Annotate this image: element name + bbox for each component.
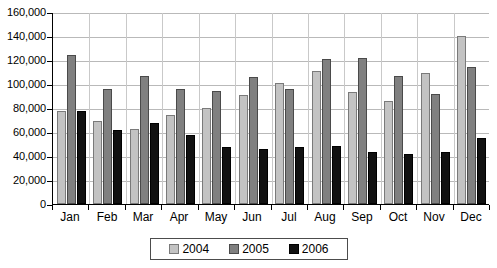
bar-jan-2005 [67, 55, 76, 204]
bar-nov-2006 [441, 152, 450, 204]
bar-apr-2006 [186, 135, 195, 204]
y-axis-tick-label: 40,000 [0, 151, 46, 162]
legend-item-2006: 2006 [289, 243, 329, 255]
bar-jul-2006 [295, 147, 304, 204]
bar-mar-2006 [150, 123, 159, 204]
bar-chart: 020,00040,00060,00080,000100,000120,0001… [0, 0, 497, 268]
y-axis-tick-label: 160,000 [0, 7, 46, 18]
bar-jul-2004 [275, 83, 284, 204]
legend-item-2005: 2005 [229, 243, 269, 255]
bar-group [126, 13, 162, 204]
bar-dec-2004 [457, 36, 466, 204]
bar-nov-2005 [431, 94, 440, 204]
legend-item-2004: 2004 [169, 243, 209, 255]
bar-mar-2005 [140, 76, 149, 204]
x-axis-tick [489, 205, 490, 210]
legend-swatch-2005 [229, 244, 239, 254]
bar-jun-2005 [249, 77, 258, 204]
bar-sep-2004 [348, 92, 357, 204]
plot-area [52, 13, 489, 205]
y-axis-tick-label: 140,000 [0, 31, 46, 42]
bar-group [199, 13, 235, 204]
bar-mar-2004 [130, 129, 139, 204]
bar-may-2004 [202, 108, 211, 204]
bar-jun-2006 [259, 149, 268, 204]
y-axis-tick-label: 100,000 [0, 79, 46, 90]
bar-group [89, 13, 125, 204]
bar-jun-2004 [239, 95, 248, 204]
bar-group [162, 13, 198, 204]
bar-group [53, 13, 89, 204]
y-axis-tick-label: 80,000 [0, 103, 46, 114]
legend-label-2004: 2004 [182, 243, 209, 255]
bar-aug-2006 [332, 146, 341, 204]
legend-swatch-2004 [169, 244, 179, 254]
bar-feb-2006 [113, 130, 122, 204]
y-axis-tick-label: 20,000 [0, 175, 46, 186]
plot-inner [53, 13, 489, 204]
bar-may-2005 [212, 91, 221, 204]
y-axis-tick-label: 0 [0, 199, 46, 210]
chart-legend: 200420052006 [150, 238, 348, 260]
bar-sep-2005 [358, 58, 367, 204]
bar-oct-2004 [384, 101, 393, 204]
bar-group [454, 13, 490, 204]
y-axis-tick-label: 120,000 [0, 55, 46, 66]
bar-jan-2004 [57, 111, 66, 204]
y-axis-tick-label: 60,000 [0, 127, 46, 138]
bar-dec-2006 [477, 138, 486, 204]
bar-sep-2006 [368, 152, 377, 204]
bar-may-2006 [222, 147, 231, 204]
bar-nov-2004 [421, 73, 430, 204]
bar-apr-2004 [166, 115, 175, 204]
bar-jul-2005 [285, 89, 294, 204]
bar-group [417, 13, 453, 204]
legend-label-2006: 2006 [302, 243, 329, 255]
bar-dec-2005 [467, 67, 476, 204]
bar-aug-2005 [322, 59, 331, 204]
legend-label-2005: 2005 [242, 243, 269, 255]
x-axis-tick-label-dec: Dec [449, 210, 493, 224]
legend-swatch-2006 [289, 244, 299, 254]
bar-group [344, 13, 380, 204]
bar-group [381, 13, 417, 204]
bar-jan-2006 [77, 111, 86, 204]
bar-apr-2005 [176, 89, 185, 204]
bar-oct-2006 [404, 154, 413, 204]
bar-aug-2004 [312, 71, 321, 204]
bar-group [235, 13, 271, 204]
bar-feb-2004 [93, 121, 102, 204]
bar-group [272, 13, 308, 204]
bar-group [308, 13, 344, 204]
bar-feb-2005 [103, 89, 112, 204]
bar-oct-2005 [394, 76, 403, 204]
